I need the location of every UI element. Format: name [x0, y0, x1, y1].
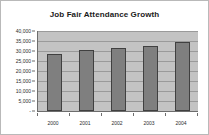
x-axis-tick-label: 2003	[134, 113, 164, 126]
x-axis-tick-mark	[133, 113, 134, 116]
chart-title: Job Fair Attendance Growth	[1, 10, 208, 19]
y-axis-tick-label: 35,000	[16, 38, 31, 44]
bar-2002	[111, 48, 126, 111]
y-axis-tick-mark	[32, 81, 35, 82]
x-axis-tick-label: 2000	[38, 113, 68, 126]
y-axis-tick-mark	[32, 31, 35, 32]
y-axis-tick-label: 40,000	[16, 28, 31, 34]
x-axis-tick-label: 2002	[102, 113, 132, 126]
y-axis-tick-label: 25,000	[16, 58, 31, 64]
x-axis-tick-label: 2001	[70, 113, 100, 126]
chart-frame: Job Fair Attendance Growth -5,00010,0001…	[0, 0, 209, 135]
x-axis-tick-mark	[165, 113, 166, 116]
bar-2001	[79, 50, 94, 111]
y-axis-tick-mark	[32, 51, 35, 52]
y-axis: -5,00010,00015,00020,00025,00030,00035,0…	[1, 31, 35, 111]
y-axis-tick-mark	[32, 71, 35, 72]
y-axis-tick-label: 20,000	[16, 68, 31, 74]
bar-2004	[175, 42, 190, 111]
x-axis-tick-mark	[69, 113, 70, 116]
y-axis-tick-mark	[32, 41, 35, 42]
y-axis-tick-label: 10,000	[16, 88, 31, 94]
x-axis: 20002001200220032004	[37, 113, 197, 129]
y-axis-tick-label: -	[29, 108, 31, 114]
x-axis-tick-mark	[197, 113, 198, 116]
y-axis-tick-label: 15,000	[16, 78, 31, 84]
x-axis-tick-label: 2004	[166, 113, 196, 126]
y-axis-tick-label: 30,000	[16, 48, 31, 54]
y-axis-tick-mark	[32, 61, 35, 62]
bar-2000	[47, 54, 62, 111]
y-axis-tick-mark	[32, 91, 35, 92]
y-axis-tick-mark	[32, 101, 35, 102]
x-axis-tick-mark	[37, 113, 38, 116]
bar-2003	[143, 46, 158, 111]
y-axis-tick-label: 5,000	[18, 98, 31, 104]
plot-area	[37, 31, 198, 112]
bar-series	[38, 31, 198, 111]
x-axis-tick-mark	[101, 113, 102, 116]
y-axis-tick-mark	[32, 111, 35, 112]
